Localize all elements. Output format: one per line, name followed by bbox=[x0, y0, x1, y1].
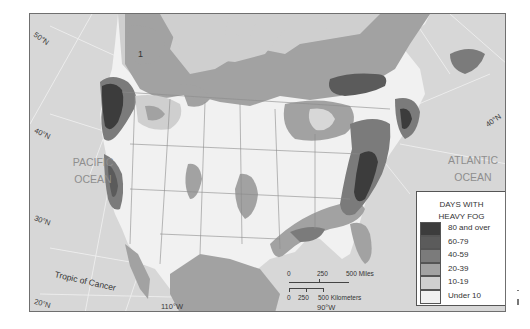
legend: DAYS WITH HEAVY FOG 80 and over 60-79 40… bbox=[416, 191, 506, 306]
legend-label: 40-59 bbox=[448, 250, 468, 259]
legend-item-10-19: 10-19 bbox=[420, 276, 505, 290]
lon-110w-label: 110°W bbox=[161, 302, 183, 311]
scale-miles-end: 500 Miles bbox=[346, 270, 374, 277]
legend-label: 80 and over bbox=[448, 223, 490, 232]
scale-km-end: 500 Kilometers bbox=[318, 294, 361, 301]
scale-miles-zero: 0 bbox=[287, 270, 291, 277]
legend-title: DAYS WITH HEAVY FOG bbox=[417, 199, 506, 223]
legend-label: Under 10 bbox=[448, 291, 481, 300]
legend-swatch bbox=[420, 276, 441, 290]
legend-swatch bbox=[420, 249, 441, 263]
legend-swatch bbox=[420, 236, 441, 250]
legend-swatch bbox=[420, 222, 441, 236]
legend-label: 60-79 bbox=[448, 237, 468, 246]
edge-mark bbox=[517, 299, 519, 305]
legend-item-40-59: 40-59 bbox=[420, 249, 505, 263]
pacific-ocean-label: PACIFIC OCEAN bbox=[58, 154, 128, 188]
scale-km-mid: 250 bbox=[298, 294, 309, 301]
legend-title-line1: DAYS WITH bbox=[440, 200, 484, 209]
legend-swatch bbox=[420, 290, 441, 304]
legend-item-20-39: 20-39 bbox=[420, 263, 505, 277]
atlantic-ocean-label: ATLANTIC OCEAN bbox=[438, 152, 506, 186]
legend-title-line2: HEAVY FOG bbox=[439, 212, 485, 221]
pacific-line2: OCEAN bbox=[74, 173, 111, 185]
edge-mark bbox=[517, 290, 519, 291]
scale-km-tick-0 bbox=[289, 288, 290, 292]
region-marker: 1 bbox=[138, 49, 143, 59]
scale-km-zero: 0 bbox=[287, 294, 291, 301]
legend-item-60-79: 60-79 bbox=[420, 236, 505, 250]
atlantic-line2: OCEAN bbox=[454, 171, 491, 183]
atlantic-line1: ATLANTIC bbox=[448, 154, 498, 166]
pacific-line1: PACIFIC bbox=[73, 156, 114, 168]
legend-label: 10-19 bbox=[448, 277, 468, 286]
scale-km-tick-500 bbox=[323, 288, 324, 292]
fog-map: 1 bbox=[29, 13, 506, 312]
legend-label: 20-39 bbox=[448, 264, 468, 273]
scale-miles-mid: 250 bbox=[317, 270, 328, 277]
scale-miles-tick bbox=[319, 279, 320, 283]
legend-item-under-10: Under 10 bbox=[420, 290, 505, 304]
scale-km-tick-250 bbox=[306, 288, 307, 292]
legend-item-80-plus: 80 and over bbox=[420, 222, 505, 236]
scale-bar: 0 250 500 Miles 0 250 500 Kilometers bbox=[286, 270, 406, 310]
legend-swatch bbox=[420, 263, 441, 277]
